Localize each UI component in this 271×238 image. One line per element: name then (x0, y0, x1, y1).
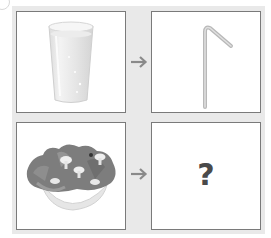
answer-card[interactable]: ? (151, 122, 261, 230)
glass-of-water-icon (17, 12, 125, 112)
drinking-straw-icon (152, 12, 260, 112)
bowl-of-salad-card (16, 122, 126, 230)
bowl-of-salad-icon (17, 123, 125, 229)
corner-decoration (0, 0, 10, 10)
question-mark: ? (152, 157, 260, 193)
drinking-straw-card (151, 11, 261, 113)
glass-of-water-card (16, 11, 126, 113)
arrow-right-icon (130, 167, 148, 181)
arrow-right-icon (130, 55, 148, 69)
